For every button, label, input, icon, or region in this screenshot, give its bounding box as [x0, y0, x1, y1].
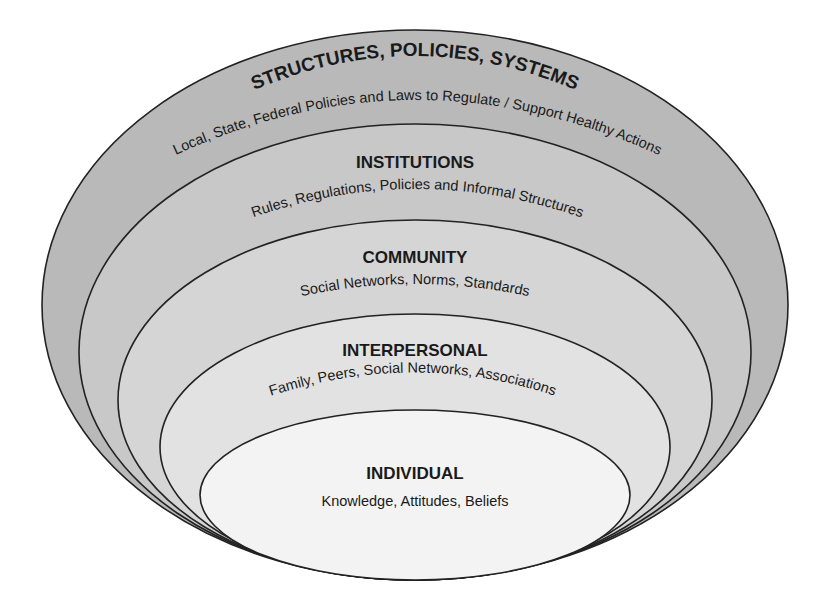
individual-subtitle: Knowledge, Attitudes, Beliefs [321, 493, 508, 509]
socio-ecological-model-diagram: STRUCTURES, POLICIES, SYSTEMS Local, Sta… [0, 0, 831, 616]
individual-title: INDIVIDUAL [366, 464, 463, 483]
interpersonal-title: INTERPERSONAL [342, 341, 487, 360]
institutions-title: INSTITUTIONS [356, 153, 474, 172]
community-title: COMMUNITY [363, 248, 468, 267]
